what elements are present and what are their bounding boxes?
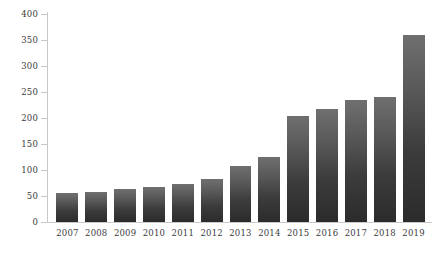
bar <box>56 193 78 222</box>
bar <box>230 166 252 222</box>
x-tick-label: 2009 <box>111 229 140 238</box>
x-tick-label: 2015 <box>284 229 313 238</box>
bar <box>374 97 396 222</box>
x-tick-label: 2017 <box>341 229 370 238</box>
bar-chart: 050100150200250300350400 200720082009201… <box>0 0 436 257</box>
bar <box>316 109 338 222</box>
x-tick-label: 2008 <box>82 229 111 238</box>
bar <box>403 35 425 222</box>
bar <box>287 116 309 222</box>
bars-layer <box>0 0 436 257</box>
x-tick-label: 2019 <box>399 229 428 238</box>
x-tick-label: 2012 <box>197 229 226 238</box>
x-tick-label: 2011 <box>168 229 197 238</box>
bar <box>85 192 107 222</box>
bar <box>201 179 223 222</box>
bar <box>114 189 136 222</box>
bar <box>172 184 194 222</box>
x-tick-label: 2018 <box>370 229 399 238</box>
x-tick-label: 2007 <box>53 229 82 238</box>
x-tick-label: 2016 <box>313 229 342 238</box>
x-tick-label: 2013 <box>226 229 255 238</box>
x-tick-label: 2010 <box>140 229 169 238</box>
bar <box>345 100 367 222</box>
bar <box>143 187 165 222</box>
x-tick-label: 2014 <box>255 229 284 238</box>
bar <box>258 157 280 222</box>
